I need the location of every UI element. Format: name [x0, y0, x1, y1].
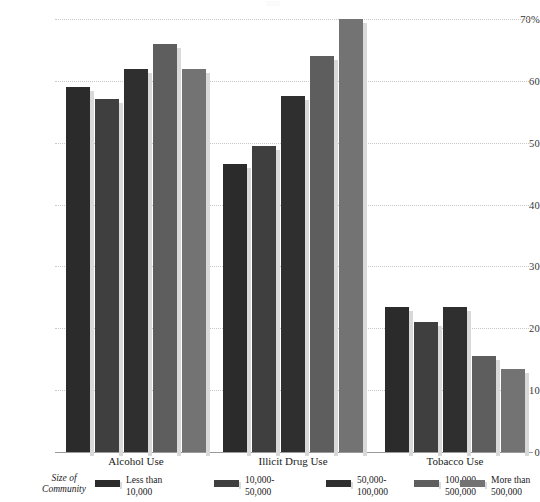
bar: [66, 87, 90, 452]
bar-body: [124, 69, 148, 453]
bar: [310, 56, 334, 452]
legend-swatch-shadow: [120, 482, 122, 489]
group-label-tobacco-use: Tobacco Use: [427, 455, 484, 467]
bar: [252, 146, 276, 452]
bar-shadow: [148, 73, 152, 457]
bar: [182, 69, 206, 453]
group-label-alcohol-use: Alcohol Use: [108, 455, 163, 467]
legend-label: Less than 10,000: [126, 475, 162, 498]
legend-swatch: [95, 480, 120, 487]
bar-body: [281, 96, 305, 452]
bar-shadow: [119, 103, 123, 456]
legend-swatch-shadow: [485, 482, 487, 489]
bar: [443, 307, 467, 452]
bar-body: [414, 322, 438, 452]
bar-body: [223, 164, 247, 452]
legend-swatch: [414, 480, 439, 487]
bar-shadow: [90, 91, 94, 456]
bar: [153, 44, 177, 452]
bar: [472, 356, 496, 452]
bar: [339, 19, 363, 452]
bar-body: [310, 56, 334, 452]
plot-area: [55, 19, 533, 452]
bar: [501, 369, 525, 453]
bar-shadow: [496, 360, 500, 456]
bar-body: [501, 369, 525, 453]
legend-swatch-shadow: [239, 482, 241, 489]
bar-shadow: [409, 311, 413, 456]
bar-body: [153, 44, 177, 452]
legend-swatch: [326, 480, 351, 487]
bar-shadow: [177, 48, 181, 456]
bar-body: [443, 307, 467, 452]
bar-chart: 010203040506070% Alcohol UseIllicit Drug…: [0, 0, 540, 502]
bar: [414, 322, 438, 452]
legend-swatch: [460, 480, 485, 487]
legend-label: More than 500,000: [491, 475, 530, 498]
bar: [124, 69, 148, 453]
legend-title: Size of Community: [33, 473, 95, 495]
bar: [223, 164, 247, 452]
gridline-70: [55, 19, 533, 20]
bar-shadow: [247, 168, 251, 456]
legend: Size of Community Less than 10,00010,000…: [0, 472, 540, 502]
bar-shadow: [438, 326, 442, 456]
legend-label: 10,000- 50,000: [245, 475, 274, 498]
bar-shadow: [525, 373, 529, 457]
legend-swatch: [214, 480, 239, 487]
bar-body: [66, 87, 90, 452]
bar-body: [182, 69, 206, 453]
legend-swatch-shadow: [439, 482, 441, 489]
bar-shadow: [363, 23, 367, 456]
legend-label: 50,000- 100,000: [357, 475, 388, 498]
x-axis-baseline: [55, 452, 533, 453]
bar-shadow: [305, 100, 309, 456]
legend-swatch-shadow: [351, 482, 353, 489]
bar-shadow: [206, 73, 210, 457]
bar-body: [339, 19, 363, 452]
bar-body: [95, 99, 119, 452]
bar: [281, 96, 305, 452]
bar-shadow: [276, 150, 280, 456]
bar-body: [472, 356, 496, 452]
bar: [385, 307, 409, 452]
bar-body: [252, 146, 276, 452]
bar: [95, 99, 119, 452]
top-crop-artifact: [266, 1, 280, 6]
bar-shadow: [467, 311, 471, 456]
bar-shadow: [334, 60, 338, 456]
group-label-illicit-drug-use: Illicit Drug Use: [258, 455, 327, 467]
bar-body: [385, 307, 409, 452]
